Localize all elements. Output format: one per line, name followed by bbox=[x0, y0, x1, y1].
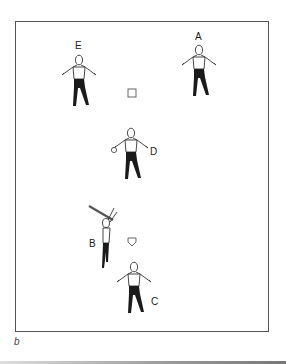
second-base-icon bbox=[128, 89, 136, 97]
ball-icon bbox=[111, 147, 116, 152]
player-b: B bbox=[89, 206, 117, 268]
baseball-positions-diagram: E A D B C bbox=[0, 0, 286, 364]
player-c-label: C bbox=[151, 296, 158, 307]
player-c: C bbox=[117, 262, 158, 313]
player-e-label: E bbox=[75, 40, 82, 51]
player-a: A bbox=[182, 31, 216, 96]
player-b-label: B bbox=[89, 238, 96, 249]
player-d-label: D bbox=[150, 146, 157, 157]
player-d: D bbox=[111, 128, 157, 179]
panel-label: b bbox=[14, 336, 20, 347]
home-plate-icon bbox=[128, 238, 136, 246]
player-a-label: A bbox=[195, 31, 202, 42]
player-e: E bbox=[62, 40, 96, 106]
